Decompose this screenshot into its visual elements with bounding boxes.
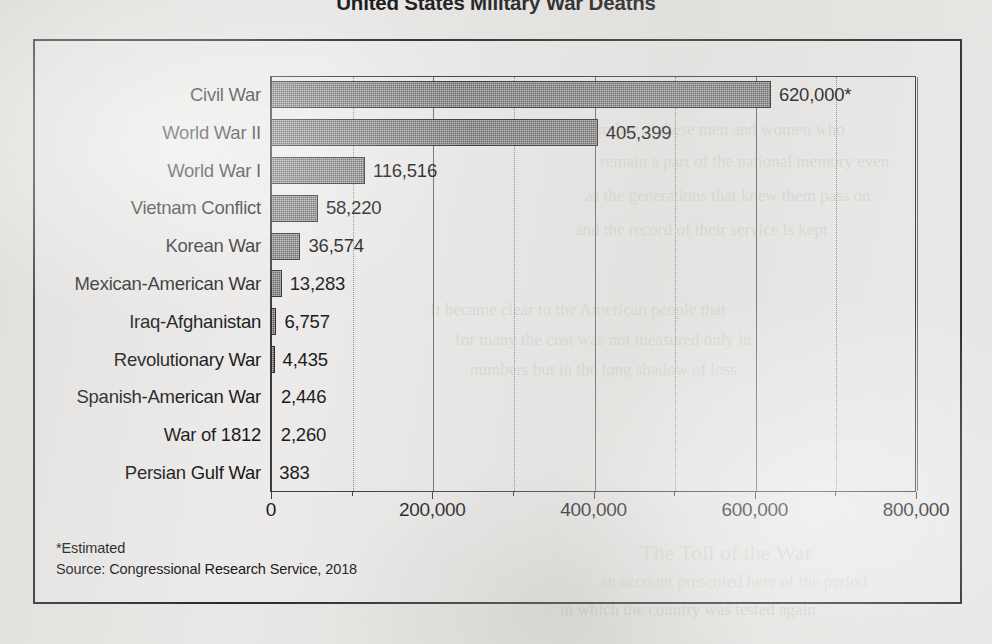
x-axis-label: 600,000 xyxy=(721,499,788,521)
category-label: Vietnam Conflict xyxy=(35,197,261,219)
bar-value-label: 620,000* xyxy=(779,84,851,106)
bar-value-label: 116,516 xyxy=(373,160,437,182)
category-label: Spanish-American War xyxy=(35,386,261,408)
category-label: Persian Gulf War xyxy=(35,462,261,484)
bar-value-label: 405,399 xyxy=(606,122,671,144)
x-tick-700000 xyxy=(835,492,836,496)
x-tick-0 xyxy=(271,492,272,499)
bar-row: Spanish-American War2,446 xyxy=(35,379,964,417)
category-label: Korean War xyxy=(35,235,261,257)
x-tick-200000 xyxy=(432,492,433,499)
category-label: World War II xyxy=(35,122,261,144)
source-note: Source: Congressional Research Service, … xyxy=(56,559,357,580)
bar-row: Mexican-American War13,283 xyxy=(35,265,964,303)
chart-frame: Civil War620,000*World War II405,399Worl… xyxy=(33,39,962,604)
bar xyxy=(271,270,282,297)
bar-row: Iraq-Afghanistan6,757 xyxy=(35,303,964,341)
x-axis-tick-labels: 0200,000400,000600,000800,000 xyxy=(35,499,964,529)
bar-value-label: 4,435 xyxy=(283,349,328,371)
bar-row: Civil War620,000* xyxy=(35,76,964,114)
x-tick-300000 xyxy=(513,492,514,496)
bar xyxy=(271,119,598,146)
bar-value-label: 36,574 xyxy=(308,235,363,257)
bar-row: Vietnam Conflict58,220 xyxy=(35,189,964,227)
bar-value-label: 2,446 xyxy=(281,386,326,408)
bar xyxy=(271,346,275,373)
bar-row: World War I116,516 xyxy=(35,152,964,190)
bar xyxy=(271,308,276,335)
chart-footnotes: *Estimated Source: Congressional Researc… xyxy=(56,538,357,580)
category-label: Civil War xyxy=(35,84,261,106)
x-tick-800000 xyxy=(916,492,917,499)
bar-row: War of 18122,260 xyxy=(35,416,964,454)
category-label: Iraq-Afghanistan xyxy=(35,311,261,333)
category-label: Revolutionary War xyxy=(35,349,261,371)
bar-row: Revolutionary War4,435 xyxy=(35,341,964,379)
x-tick-600000 xyxy=(755,492,756,499)
bar-row: Persian Gulf War383 xyxy=(35,454,964,492)
bar-rows: Civil War620,000*World War II405,399Worl… xyxy=(35,76,964,492)
x-tick-400000 xyxy=(594,492,595,499)
bar-row: Korean War36,574 xyxy=(35,227,964,265)
chart-title: United States Military War Deaths xyxy=(0,0,992,15)
x-axis-label: 200,000 xyxy=(399,499,466,521)
bar xyxy=(271,233,300,260)
bar-row: World War II405,399 xyxy=(35,114,964,152)
bar xyxy=(271,81,771,108)
bar-value-label: 383 xyxy=(279,462,309,484)
category-label: War of 1812 xyxy=(35,424,261,446)
bar xyxy=(271,157,365,184)
x-axis-label: 800,000 xyxy=(883,499,950,521)
x-tick-500000 xyxy=(674,492,675,496)
bar-value-label: 13,283 xyxy=(290,273,345,295)
bar-value-label: 58,220 xyxy=(326,197,381,219)
bar-value-label: 2,260 xyxy=(281,424,326,446)
estimated-note: *Estimated xyxy=(56,538,357,559)
x-axis-label: 400,000 xyxy=(560,499,627,521)
x-axis-label: 0 xyxy=(266,499,276,521)
bar xyxy=(271,195,318,222)
bar-value-label: 6,757 xyxy=(284,311,329,333)
category-label: World War I xyxy=(35,160,261,182)
x-tick-100000 xyxy=(352,492,353,496)
category-label: Mexican-American War xyxy=(35,273,261,295)
